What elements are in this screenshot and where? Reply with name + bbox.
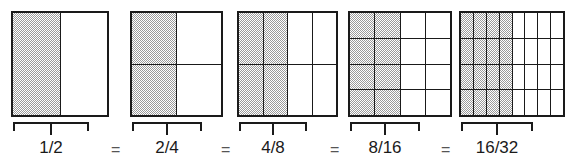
area-model-cell-empty (538, 39, 551, 64)
brace-stem (384, 124, 386, 135)
fraction-label-four-eighths: 4/8 (239, 138, 307, 158)
area-model-cell-shaded (239, 65, 264, 116)
equals-sign-two-fourths: = (111, 140, 120, 160)
brace-eight-sixteenths (350, 122, 420, 135)
area-model-cell-shaded (487, 65, 500, 90)
area-model-cell-shaded (487, 90, 500, 115)
area-model-cell-shaded (13, 13, 61, 115)
area-model-cell-shaded (132, 65, 177, 116)
area-model-cell-empty (313, 13, 337, 64)
fraction-label-two-fourths: 2/4 (132, 138, 202, 158)
brace-half (13, 122, 89, 135)
area-model-cell-shaded (500, 90, 513, 115)
area-model-cell-shaded (500, 39, 513, 64)
area-model-cell-empty (513, 65, 526, 90)
area-model-cell-shaded (487, 13, 500, 38)
brace-two-fourths (132, 122, 202, 135)
area-model-cell-empty (401, 13, 426, 38)
brace-tick-r (200, 122, 202, 131)
area-model-cell-shaded (500, 13, 513, 38)
area-model-cell-empty (525, 65, 538, 90)
area-model-cell-empty (551, 39, 563, 64)
area-model-cell-shaded (461, 39, 474, 64)
area-model-cell-shaded (474, 65, 487, 90)
area-model-cell-empty (513, 90, 526, 115)
area-model-cell-empty (538, 90, 551, 115)
brace-tick-r (531, 122, 533, 131)
area-model-cell-shaded (375, 39, 400, 64)
brace-tick-l (132, 122, 134, 131)
area-model-cell-shaded (132, 13, 177, 64)
area-model-row (13, 13, 107, 115)
fraction-label-sixteen-thirtyseconds: 16/32 (456, 138, 538, 158)
brace-tick-l (239, 122, 241, 131)
area-model-cell-empty (538, 65, 551, 90)
brace-tick-l (13, 122, 15, 131)
brace-stem (50, 124, 52, 135)
area-model-cell-empty (525, 39, 538, 64)
area-model-row (239, 65, 336, 116)
area-model-cell-empty (401, 65, 426, 90)
brace-tick-r (418, 122, 420, 131)
area-model-cell-empty (426, 65, 450, 90)
equivalent-fractions-figure: 1/2=2/4=4/8=8/16=16/32 (0, 0, 573, 163)
area-model-cell-shaded (350, 13, 375, 38)
area-model-cell-shaded (375, 65, 400, 90)
fraction-label-eight-sixteenths: 8/16 (346, 138, 424, 158)
area-model-cell-shaded (474, 39, 487, 64)
area-model-cell-shaded (487, 39, 500, 64)
area-model-cell-empty (525, 90, 538, 115)
brace-sixteen-thirtyseconds (461, 122, 533, 135)
area-model-cell-empty (513, 39, 526, 64)
area-model-row (132, 65, 221, 116)
area-model-cell-shaded (239, 13, 264, 64)
area-model-cell-empty (426, 90, 450, 115)
area-model-cell-shaded (350, 39, 375, 64)
area-model-cell-empty (551, 90, 563, 115)
area-model-row (461, 39, 563, 65)
area-model-cell-empty (551, 65, 563, 90)
area-model-half (11, 11, 109, 117)
area-model-cell-empty (525, 13, 538, 38)
brace-stem (166, 124, 168, 135)
area-model-cell-shaded (264, 13, 289, 64)
area-model-row (461, 13, 563, 39)
equals-sign-four-eighths: = (221, 140, 230, 160)
area-model-cell-shaded (350, 90, 375, 115)
area-model-cell-shaded (350, 65, 375, 90)
area-model-cell-empty (177, 65, 221, 116)
area-model-two-fourths (130, 11, 223, 117)
area-model-row (350, 65, 450, 91)
area-model-cell-empty (513, 13, 526, 38)
area-model-row (350, 39, 450, 65)
area-model-cell-shaded (461, 90, 474, 115)
area-model-cell-shaded (375, 90, 400, 115)
brace-tick-r (87, 122, 89, 131)
area-model-cell-shaded (461, 13, 474, 38)
area-model-cell-empty (538, 13, 551, 38)
area-model-row (461, 65, 563, 91)
area-model-cell-empty (61, 13, 108, 115)
area-model-cell-empty (288, 65, 313, 116)
area-model-row (132, 13, 221, 65)
area-model-sixteen-thirtyseconds (459, 11, 565, 117)
area-model-cell-shaded (474, 13, 487, 38)
area-model-cell-empty (551, 13, 563, 38)
area-model-cell-shaded (461, 65, 474, 90)
area-model-row (239, 13, 336, 65)
area-model-cell-shaded (375, 13, 400, 38)
brace-stem (272, 124, 274, 135)
area-model-cell-empty (288, 13, 313, 64)
area-model-row (350, 90, 450, 115)
brace-tick-l (461, 122, 463, 131)
area-model-cell-empty (313, 65, 337, 116)
brace-tick-r (305, 122, 307, 131)
area-model-cell-empty (426, 13, 450, 38)
area-model-cell-shaded (264, 65, 289, 116)
area-model-cell-empty (401, 39, 426, 64)
brace-stem (496, 124, 498, 135)
area-model-cell-empty (177, 13, 221, 64)
area-model-cell-empty (401, 90, 426, 115)
area-model-cell-shaded (474, 90, 487, 115)
brace-four-eighths (239, 122, 307, 135)
